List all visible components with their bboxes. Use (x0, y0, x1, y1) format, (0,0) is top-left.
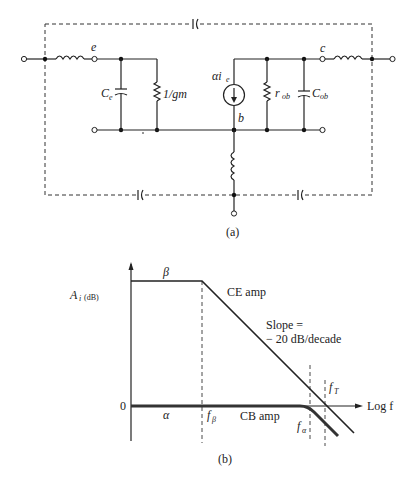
alpha-label: α (163, 408, 170, 422)
figure-canvas: e C e 1/gm b (0, 0, 416, 477)
emitter-resistance-label: 1/gm (163, 87, 187, 101)
collector-lead-inductor-icon (334, 56, 362, 59)
circuit-caption: (a) (226, 225, 239, 239)
stray-capacitor-top-icon (193, 19, 198, 29)
y-axis-label-subscript: i (79, 294, 81, 303)
output-terminal-bottom (320, 127, 325, 132)
f-alpha-subscript: α (302, 426, 307, 435)
emitter-input-branch (21, 56, 157, 62)
output-resistance-subscript: ob (282, 92, 290, 101)
stray-capacitor-bottom-left-icon (138, 190, 143, 200)
beta-label: β (162, 265, 169, 279)
f-t-subscript: T (334, 387, 339, 396)
collector-node-terminal (320, 56, 325, 61)
zero-tick-label: 0 (120, 399, 126, 413)
y-axis (129, 262, 134, 441)
emitter-capacitance-subscript: e (109, 93, 113, 102)
emitter-resistor-icon (154, 59, 160, 132)
emitter-node-terminal (92, 56, 97, 61)
input-terminal-left (21, 56, 26, 61)
slope-label-line1: Slope = (266, 318, 303, 332)
current-source-subscript: e (226, 75, 230, 84)
output-resistor-icon (264, 59, 270, 130)
base-terminal (231, 211, 236, 216)
slope-label-line2: − 20 dB/decade (266, 332, 341, 346)
frequency-response-chart: A i (dB) 0 Log f β α CE amp CB amp Slope… (69, 262, 393, 466)
chart-caption: (b) (218, 452, 232, 466)
emitter-lead-inductor-icon (56, 56, 84, 59)
equivalent-circuit: e C e 1/gm b (21, 19, 395, 239)
emitter-capacitor (115, 59, 127, 132)
f-beta-subscript: β (211, 415, 216, 424)
stray-capacitor-bottom-right-icon (298, 190, 303, 200)
base-rail (92, 127, 325, 133)
y-axis-label: A (69, 288, 78, 302)
base-lead-branch (231, 128, 237, 216)
input-terminal-bottom (92, 127, 97, 132)
ce-amp-label: CE amp (227, 285, 266, 299)
collector-output-branch (234, 56, 395, 62)
cb-amp-label: CB amp (240, 409, 280, 423)
x-axis-label: Log f (367, 399, 393, 413)
emitter-node-label: e (91, 40, 97, 54)
base-lead-inductor-icon (231, 152, 234, 180)
current-source-label: αi (212, 69, 222, 83)
output-terminal-right (390, 56, 395, 61)
output-capacitance-subscript: ob (320, 92, 328, 101)
output-capacitor (298, 59, 310, 130)
output-resistance-label: r (275, 86, 280, 100)
y-axis-unit: (dB) (84, 293, 99, 302)
base-node-label: b (238, 111, 244, 125)
collector-node-label: c (320, 41, 326, 55)
